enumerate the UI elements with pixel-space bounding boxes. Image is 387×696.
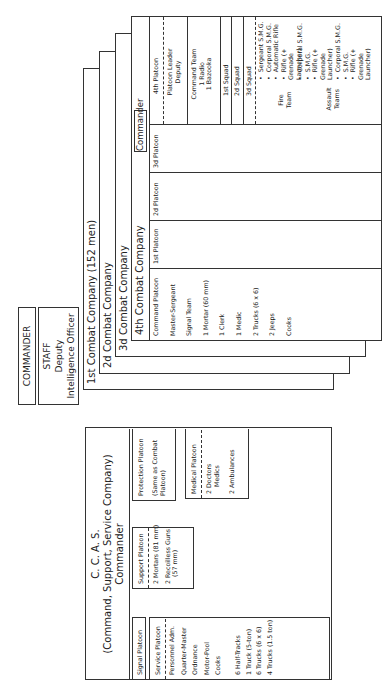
platoon-2-label: 2d Platoon [152, 177, 160, 216]
company-1-title: 1st Combat Company (152 men) [86, 220, 97, 384]
service-item: Ordnance [191, 620, 199, 675]
signal-platoon-label: Signal Platoon [136, 630, 143, 675]
company-2-title: 2d Combat Company [102, 262, 113, 368]
platoon-1: 1st Platoon [149, 221, 381, 268]
command-team-radio: 1 Radio [198, 44, 206, 104]
service-item: Quarter-Master [180, 620, 188, 675]
squad-2: 2d Squad [233, 66, 241, 96]
protection-platoon: Protection Platoon (Same as Combat Plato… [132, 429, 176, 501]
fire-team-item: Sergeant S.M.G. [257, 21, 265, 80]
support-item: (57 mm) [171, 525, 179, 584]
protection-note-line: (Same as Combat [151, 440, 159, 496]
assault-item: Rifle (+ Grenade Launcher) [311, 22, 334, 80]
ccas-company: C. C. A. S. (Command, Support, Service C… [85, 427, 332, 680]
assault-item: S.M.G. [304, 22, 312, 80]
platoon-leader: Platoon Leader Deputy [166, 32, 181, 112]
medical-item: 2 Doctors [205, 449, 213, 494]
staff-intel: Intelligence Officer [65, 308, 77, 404]
company-commander-label: Commander [135, 99, 145, 151]
company-4-title: 4th Combat Company [134, 225, 145, 335]
platoon-2: 2d Platoon [149, 173, 381, 220]
assault-team-list: Corporal S.M.G. S.M.G. Rifle (+ Grenade … [296, 22, 372, 80]
support-platoon: Support Platoon 2 Mortars (81 mm) 2 Reco… [132, 527, 194, 589]
staff-deputy: Deputy [53, 308, 65, 404]
support-item: 2 Mortars (81 mm) [152, 525, 160, 584]
org-chart: COMMANDER STAFF Deputy Intelligence Offi… [0, 0, 387, 696]
command-team-bazooka: 1 Bazooka [205, 44, 213, 104]
platoon-deputy-label: Deputy [174, 32, 182, 112]
cmd-item: 2 Jeeps [268, 273, 276, 336]
company-3-title: 3d Combat Company [118, 245, 129, 351]
cmd-item: Signal Team [185, 273, 193, 336]
service-platoon-title: Service Platoon [154, 626, 162, 675]
service-item: Motor-Pool [203, 620, 211, 675]
company-4: 4th Combat Company Commander Command Pla… [131, 16, 382, 341]
command-platoon-title: Command Platoon [152, 273, 160, 336]
vehicle-item: 6 Trucks (6 x 6) [255, 620, 263, 675]
platoon-1-label: 1st Platoon [152, 225, 160, 264]
service-platoon: Service Platoon Personnel Adm. Quarter-M… [149, 617, 330, 679]
ccas-subtitle: (Command, Support, Service Company) [102, 429, 114, 679]
protection-platoon-title: Protection Platoon [137, 439, 145, 496]
staff-title: STAFF [41, 308, 53, 404]
fire-team-item: Automatic Rifle [272, 21, 280, 80]
medical-platoon-title: Medical Platoon [190, 444, 198, 494]
service-item: Cooks [214, 620, 222, 675]
cmd-item: Master-Sergeant [169, 273, 177, 336]
assault-teams-label: Assault Teams [325, 84, 340, 114]
service-staff: Personnel Adm. Quarter-Master Ordnance M… [168, 620, 273, 675]
staff-box: STAFF Deputy Intelligence Officer [38, 307, 79, 405]
squad-3: 3d Squad [245, 66, 253, 96]
assault-item: Rifle (+ Grenade Launcher) [349, 22, 372, 80]
squad-1: 1st Squad [222, 64, 230, 96]
medical-item: Medics [213, 449, 221, 494]
medical-item: 2 Ambulances [228, 449, 236, 494]
medical-platoon: Medical Platoon 2 Doctors Medics 2 Ambul… [185, 429, 249, 499]
vehicle-item: 1 Truck (5-ton) [245, 620, 253, 675]
commander-box: COMMANDER [18, 307, 36, 405]
support-item: 2 Recoilless Guns [164, 525, 172, 584]
platoon-leader-label: Platoon Leader [166, 32, 174, 112]
command-team-title: Command Team [190, 44, 198, 104]
service-item: Personnel Adm. [168, 620, 176, 675]
medical-items: 2 Doctors Medics 2 Ambulances [205, 449, 236, 494]
signal-platoon: Signal Platoon [132, 617, 146, 679]
cmd-item: 1 Clerk [218, 273, 226, 336]
platoon-3: 3d Platoon [149, 125, 381, 172]
support-platoon-title: Support Platoon [137, 534, 145, 584]
ccas-header: C. C. A. S. (Command, Support, Service C… [90, 429, 126, 679]
fire-team-label: Fire Team [277, 88, 292, 112]
ccas-commander: Commander [114, 429, 126, 679]
assault-item: S.M.G. [342, 22, 350, 80]
teams-label: Teams [333, 84, 341, 114]
support-items: 2 Mortars (81 mm) 2 Recoilless Guns (57 … [152, 525, 179, 584]
vehicle-item: 4 Trucks (1.5 ton) [266, 620, 274, 675]
fire-team-item: Corporal S.M.G. [265, 21, 273, 80]
cmd-item: 1 Mortar (60 mm) [202, 273, 210, 336]
cmd-item: 1 Medic [235, 273, 243, 336]
commander-label: COMMANDER [19, 308, 33, 404]
platoon-4: 4th Platoon Platoon Leader Deputy Comman… [149, 17, 381, 124]
cmd-item: 2 Trucks (6 x 6) [252, 273, 260, 336]
team-label: Team [285, 88, 293, 112]
protection-note-line: Platoon) [159, 440, 167, 496]
company-commander: Commander [134, 110, 147, 152]
ccas-title: C. C. A. S. [90, 429, 102, 679]
platoon-3-label: 3d Platoon [152, 129, 160, 168]
fire-label: Fire [277, 88, 285, 112]
platoon-4-title: 4th Platoon [152, 58, 160, 94]
assault-item: Corporal S.M.G. [296, 22, 304, 80]
assault-item: Corporal S.M.G. [334, 22, 342, 80]
protection-note: (Same as Combat Platoon) [151, 440, 166, 496]
command-team: Command Team 1 Radio 1 Bazooka [190, 44, 213, 104]
cmd-item: Cooks [285, 273, 293, 336]
command-platoon: Command Platoon Master-Sergeant Signal T… [149, 269, 381, 340]
assault-label: Assault [325, 84, 333, 114]
vehicle-item: 6 Half-Tracks [234, 620, 242, 675]
